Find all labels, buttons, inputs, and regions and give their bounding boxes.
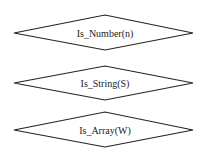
flowchart-canvas: Is_Number(n) Is_String(S) Is_Array(W) <box>0 0 208 155</box>
decision-node-is-array: Is_Array(W) <box>14 112 193 147</box>
decision-node-is-number: Is_Number(n) <box>14 15 193 50</box>
node-label: Is_Array(W) <box>79 125 131 137</box>
decision-node-is-string: Is_String(S) <box>14 66 193 100</box>
node-label: Is_Number(n) <box>77 28 134 40</box>
node-label: Is_String(S) <box>81 78 130 90</box>
